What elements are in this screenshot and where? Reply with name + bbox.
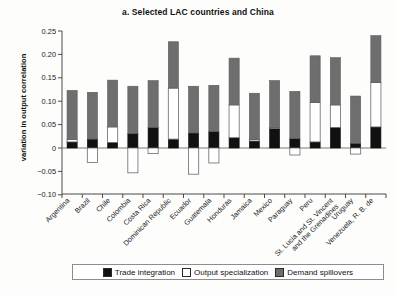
bar-stack	[128, 86, 138, 173]
bar-segment-trade-integration	[310, 142, 320, 148]
chart-legend: Trade integration Output specialization …	[72, 264, 384, 280]
legend-item-demand-spillovers: Demand spillovers	[275, 268, 353, 277]
bar-segment-demand-spillovers	[168, 42, 178, 88]
y-tick-label: −0.05	[37, 167, 56, 176]
bar-segment-output-specialization	[229, 105, 239, 138]
y-tick-label: 0.05	[42, 120, 56, 129]
bar-stack	[371, 36, 381, 148]
bar-segment-output-specialization-negative	[87, 148, 97, 163]
x-tick-label: Peru	[297, 196, 314, 213]
bar-segment-demand-spillovers	[229, 58, 239, 105]
bar-stack	[249, 93, 259, 148]
bar-stack	[108, 80, 118, 148]
bar-segment-output-specialization-negative	[351, 148, 361, 154]
bar-segment-demand-spillovers	[209, 85, 219, 131]
y-tick-label: 0.10	[42, 97, 56, 106]
legend-label-trade-integration: Trade integration	[115, 268, 175, 277]
bar-stack	[351, 96, 361, 154]
x-tick-label: Jamaica	[228, 196, 253, 221]
bar-segment-demand-spillovers	[148, 81, 158, 128]
bar-segment-trade-integration	[209, 132, 219, 148]
bar-segment-demand-spillovers	[249, 93, 259, 139]
bar-stack	[209, 85, 219, 163]
bar-segment-trade-integration	[67, 142, 77, 148]
bar-segment-output-specialization	[67, 140, 77, 142]
x-tick-label: Argentina	[43, 196, 71, 224]
bar-stack	[148, 81, 158, 154]
x-axis	[62, 148, 386, 198]
bar-stack	[67, 90, 77, 148]
bar-segment-trade-integration	[351, 143, 361, 148]
bar-segment-trade-integration	[168, 139, 178, 148]
bar-segment-trade-integration	[371, 127, 381, 148]
bar-segment-trade-integration	[189, 133, 199, 148]
bar-segment-demand-spillovers	[290, 91, 300, 138]
x-tick-label: Brazil	[73, 196, 92, 215]
bar-segment-trade-integration	[128, 133, 138, 148]
bar-segment-demand-spillovers	[371, 36, 381, 83]
bar-stack	[189, 86, 199, 174]
bar-segment-trade-integration	[87, 139, 97, 148]
bar-segment-output-specialization	[168, 88, 178, 139]
bar-stack	[330, 58, 340, 148]
bar-segment-demand-spillovers	[351, 96, 361, 143]
legend-label-demand-spillovers: Demand spillovers	[287, 268, 353, 277]
bar-stack	[270, 81, 280, 148]
bar-segment-output-specialization	[371, 82, 381, 126]
bar-segment-output-specialization-negative	[148, 148, 158, 154]
bar-segment-trade-integration	[330, 127, 340, 148]
bar-stack	[168, 42, 178, 148]
bar-stack	[87, 92, 97, 162]
bar-stack	[229, 58, 239, 148]
bar-segment-output-specialization	[108, 127, 118, 142]
bar-segment-demand-spillovers	[128, 86, 138, 133]
legend-swatch-trade-integration	[103, 268, 112, 277]
legend-label-output-specialization: Output specialization	[194, 268, 268, 277]
bar-segment-demand-spillovers	[270, 81, 280, 128]
y-tick-label: −0.10	[37, 190, 56, 199]
bar-segment-output-specialization-negative	[128, 148, 138, 173]
bar-segment-output-specialization-negative	[290, 148, 300, 155]
bar-segment-demand-spillovers	[310, 56, 320, 103]
bar-segment-trade-integration	[148, 127, 158, 148]
bar-segment-demand-spillovers	[67, 90, 77, 139]
bar-stack	[310, 56, 320, 148]
legend-swatch-demand-spillovers	[275, 268, 284, 277]
bar-stack	[290, 91, 300, 155]
y-tick-label: 0	[52, 144, 56, 153]
category-labels: ArgentinaBrazilChileColombiaCosta RicaDo…	[43, 196, 375, 264]
legend-item-output-specialization: Output specialization	[182, 268, 268, 277]
bar-segment-output-specialization	[330, 105, 340, 127]
y-axis-ticks: −0.10−0.0500.050.100.150.200.25	[37, 27, 62, 200]
bar-segment-demand-spillovers	[189, 86, 199, 133]
bar-segment-demand-spillovers	[330, 58, 340, 105]
y-tick-label: 0.25	[42, 27, 56, 36]
bar-segment-demand-spillovers	[87, 92, 97, 139]
bar-segment-output-specialization-negative	[189, 148, 199, 174]
bar-segment-demand-spillovers	[108, 80, 118, 127]
bar-segment-trade-integration	[229, 138, 239, 148]
bar-segment-trade-integration	[270, 128, 280, 148]
chart-page: a. Selected LAC countries and China vari…	[0, 0, 396, 295]
bar-segment-output-specialization-negative	[209, 148, 219, 163]
bar-segment-trade-integration	[249, 141, 259, 148]
y-tick-label: 0.15	[42, 73, 56, 82]
bars-group	[67, 36, 381, 175]
bar-segment-trade-integration	[108, 142, 118, 148]
bar-segment-output-specialization	[310, 103, 320, 142]
y-tick-label: 0.20	[42, 50, 56, 59]
bar-chart-plot: −0.10−0.0500.050.100.150.200.25 Argentin…	[0, 0, 396, 295]
bar-segment-trade-integration	[290, 139, 300, 148]
legend-swatch-output-specialization	[182, 268, 191, 277]
legend-item-trade-integration: Trade integration	[103, 268, 175, 277]
